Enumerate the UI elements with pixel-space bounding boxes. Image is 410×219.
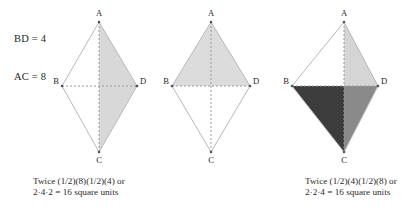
shaded-region-adc — [99, 22, 137, 152]
vertex-label-d: D — [253, 76, 259, 86]
caption-1-line-1: Twice (1/2)(8)(1/2)(4) or — [33, 176, 125, 187]
vertex-dot-a — [98, 21, 101, 24]
kite-diagram-2: A B C D — [150, 0, 278, 170]
vertex-label-b: B — [283, 76, 289, 86]
vertex-dot-b — [171, 85, 174, 88]
vertex-label-a: A — [341, 8, 348, 18]
panel-top-half: A B C D Twice (1/2)(4)(1/2)(8) or 2·2·4 … — [150, 0, 278, 219]
vertex-label-b: B — [53, 76, 59, 86]
vertex-dot-b — [61, 85, 64, 88]
caption-1-line-2: 2·4·2 = 16 square units — [33, 187, 125, 198]
vertex-dot-d — [249, 85, 252, 88]
kite-diagram-3: A B C D — [278, 0, 410, 170]
vertex-label-a: A — [208, 8, 215, 18]
vertex-dot-d — [136, 85, 139, 88]
kite-area-figure: BD = 4 AC = 8 A B C D Twice (1/2)(8)(1/2… — [0, 0, 410, 219]
vertex-label-d: D — [381, 76, 387, 86]
caption-panel-1: Twice (1/2)(8)(1/2)(4) or 2·4·2 = 16 squ… — [33, 176, 125, 197]
vertex-dot-b — [291, 85, 294, 88]
kite-diagram-1: A B C D — [0, 0, 150, 170]
vertex-label-d: D — [140, 76, 146, 86]
vertex-dot-a — [343, 21, 346, 24]
vertex-dot-c — [98, 151, 101, 154]
vertex-label-b: B — [163, 76, 169, 86]
vertex-dot-a — [210, 21, 213, 24]
vertex-dot-c — [343, 151, 346, 154]
panel-four-quadrants: A B C D Four times (1/2)(1/2)(8)(1/2)(4)… — [278, 0, 410, 219]
vertex-label-c: C — [341, 155, 347, 165]
vertex-label-c: C — [208, 155, 214, 165]
panel-right-half: BD = 4 AC = 8 A B C D Twice (1/2)(8)(1/2… — [0, 0, 150, 219]
vertex-dot-d — [377, 85, 380, 88]
vertex-dot-c — [210, 151, 213, 154]
vertex-label-a: A — [96, 8, 103, 18]
vertex-label-c: C — [96, 155, 102, 165]
